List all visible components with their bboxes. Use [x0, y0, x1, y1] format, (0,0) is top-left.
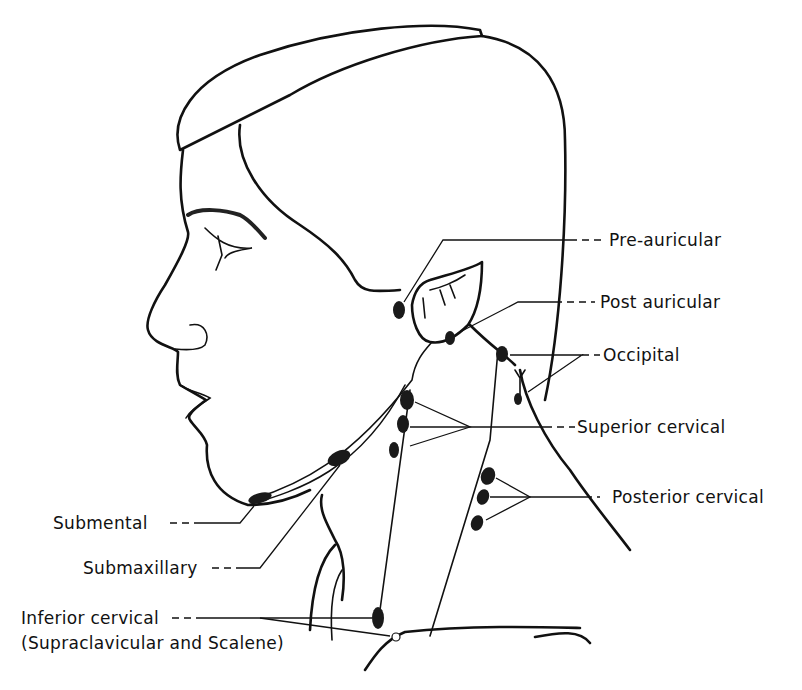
node-posterior-cervical-2 [475, 487, 492, 506]
node-superior-cervical-3 [389, 442, 399, 458]
label-posterior-cervical: Posterior cervical [612, 487, 764, 507]
label-inferior-cervical: Inferior cervical [21, 608, 159, 628]
label-submental: Submental [53, 513, 148, 533]
leader-lines [170, 240, 605, 636]
head-back-outline [482, 36, 565, 400]
label-submaxillary: Submaxillary [83, 558, 198, 578]
label-superior-cervical: Superior cervical [577, 417, 726, 437]
node-scalene [392, 633, 400, 641]
label-inferior-cervical-sub: (Supraclavicular and Scalene) [21, 633, 284, 653]
face-profile-outline [147, 150, 310, 505]
label-pre-auricular: Pre-auricular [609, 230, 721, 250]
label-occipital: Occipital [603, 345, 680, 365]
lips-outline [180, 385, 210, 418]
node-superior-cervical-2 [397, 415, 409, 433]
node-inferior-cervical [372, 607, 384, 629]
node-pre-auricular [393, 301, 405, 319]
neck-front-outline [310, 495, 344, 630]
node-occipital-1 [496, 346, 508, 362]
hairline-outline [239, 125, 400, 291]
node-post-auricular [445, 331, 455, 345]
node-posterior-cervical-3 [469, 513, 486, 532]
jaw-line [248, 385, 405, 505]
lymph-node-diagram [0, 0, 802, 690]
hair-outline [178, 26, 482, 150]
eye-outline [205, 228, 252, 270]
ear-outline [412, 262, 482, 343]
node-occipital-2 [514, 393, 522, 405]
nostril-outline [175, 325, 207, 350]
node-superior-cervical-1 [400, 390, 414, 410]
label-post-auricular: Post auricular [600, 292, 720, 312]
eyebrow [188, 210, 265, 238]
